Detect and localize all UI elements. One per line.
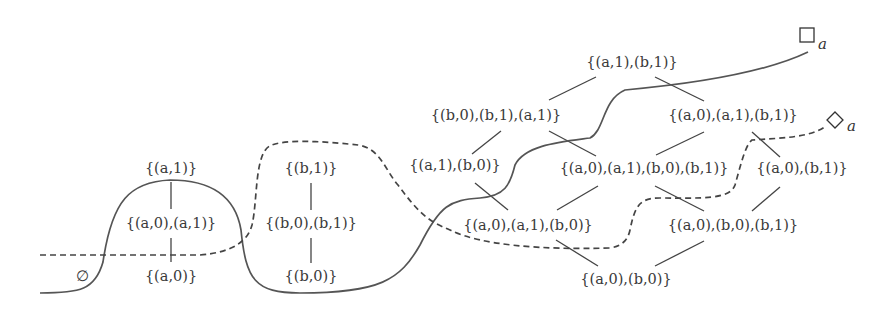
edge-a0a1b0-a0b0: [556, 240, 598, 266]
lattice-nodes: ∅ {(a,0)} {(a,0),(a,1)} {(a,1)} {(b,0)} …: [76, 54, 848, 287]
box-icon: [800, 28, 814, 42]
node-a0b1: {(a,0),(b,1)}: [756, 160, 847, 176]
node-a0a1: {(a,0),(a,1)}: [126, 215, 217, 231]
edge-a0b1-a0b0b1: [752, 187, 780, 211]
node-a0b0b1: {(a,0),(b,0),(b,1)}: [668, 217, 798, 233]
diamond-icon: [827, 112, 843, 128]
node-b0: {(b,0)}: [285, 268, 338, 284]
node-a0a1b1: {(a,0),(a,1),(b,1)}: [668, 107, 798, 123]
node-b0b1: {(b,0),(b,1)}: [265, 215, 357, 231]
box-subscript: a: [818, 35, 827, 53]
diamond-subscript: a: [847, 117, 856, 135]
diamond-operator-label: a: [827, 112, 856, 135]
node-empty: ∅: [76, 268, 89, 284]
edge-a0a1b1-a0b1: [752, 132, 780, 157]
node-b1: {(b,1)}: [285, 160, 338, 176]
lattice-diagram: a a ∅ {(a,0)} {(a,0),(a,1)} {(a,1)} {(b,…: [0, 0, 894, 316]
node-a0a1b0: {(a,0),(a,1),(b,0)}: [463, 217, 593, 233]
node-a1: {(a,1)}: [145, 160, 197, 176]
edge-a0a1b1-a0a1b0b1: [656, 132, 704, 155]
node-a0a1b0b1: {(a,0),(a,1),(b,0),(b,1)}: [560, 160, 729, 176]
node-b0b1a1: {(b,0),(b,1),(a,1)}: [431, 107, 561, 123]
edge-b0b1a1-a1b0: [472, 131, 501, 154]
diamond-curve: [40, 126, 826, 255]
edge-a0b0b1-a0b0: [655, 241, 704, 266]
box-operator-label: a: [800, 28, 827, 53]
node-a1b0: {(a,1),(b,0)}: [409, 157, 500, 173]
edge-a1b1-b0b1a1: [549, 77, 596, 100]
node-a0: {(a,0)}: [145, 268, 197, 284]
node-a1b1: {(a,1),(b,1)}: [586, 54, 677, 70]
edge-a1b1-a0a1b1: [655, 77, 704, 101]
node-a0b0: {(a,0),(b,0)}: [580, 271, 671, 287]
edge-a0a1b0b1-a0a1b0: [557, 186, 598, 210]
